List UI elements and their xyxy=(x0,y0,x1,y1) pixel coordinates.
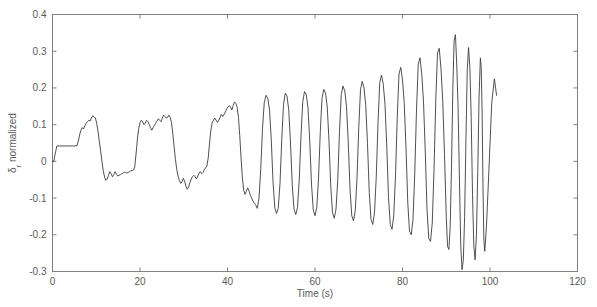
plot-frame xyxy=(53,15,578,272)
x-tick-label: 0 xyxy=(50,276,56,287)
y-tick-label: 0.4 xyxy=(33,9,47,20)
line-chart: 020406080100120 -0.3-0.2-0.100.10.20.30.… xyxy=(0,0,597,307)
x-axis-ticks xyxy=(53,15,578,272)
y-axis-title-group: δr normalized xyxy=(7,113,23,173)
x-axis-tick-labels: 020406080100120 xyxy=(50,276,587,287)
y-tick-label: -0.2 xyxy=(29,229,47,240)
y-tick-label: 0 xyxy=(41,156,47,167)
x-tick-label: 120 xyxy=(569,276,586,287)
figure-container: 020406080100120 -0.3-0.2-0.100.10.20.30.… xyxy=(0,0,597,307)
axes-frame xyxy=(53,15,578,272)
y-tick-label: 0.2 xyxy=(33,82,47,93)
x-tick-label: 100 xyxy=(482,276,499,287)
x-tick-label: 20 xyxy=(134,276,146,287)
y-axis-title: δr normalized xyxy=(7,113,23,173)
y-axis-tick-labels: -0.3-0.2-0.100.10.20.30.4 xyxy=(29,9,47,277)
x-tick-label: 80 xyxy=(397,276,409,287)
x-tick-label: 40 xyxy=(222,276,234,287)
y-tick-label: -0.1 xyxy=(29,193,47,204)
y-tick-label: -0.3 xyxy=(29,266,47,277)
y-axis-ticks xyxy=(53,15,578,272)
y-tick-label: 0.1 xyxy=(33,119,47,130)
y-axis-title-rest: normalized xyxy=(7,113,18,165)
data-series-line xyxy=(53,35,497,270)
y-tick-label: 0.3 xyxy=(33,46,47,57)
x-axis-title: Time (s) xyxy=(297,288,333,299)
x-tick-label: 60 xyxy=(309,276,321,287)
